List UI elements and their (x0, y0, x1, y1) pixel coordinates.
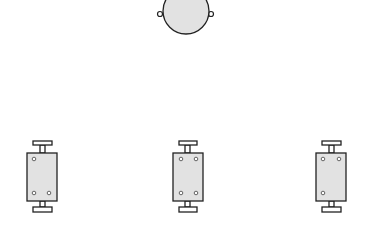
mount-hole-icon (32, 191, 36, 195)
top-cap (179, 141, 197, 145)
knob-left (158, 12, 163, 17)
mount-hole-icon (194, 157, 198, 161)
mount-hole-icon (337, 157, 341, 161)
rect-body (27, 153, 57, 201)
top-cap (33, 141, 52, 145)
mount-hole-icon (32, 157, 36, 161)
rect-fixture-icon (173, 141, 203, 212)
mount-hole-icon (321, 191, 325, 195)
diagram-canvas (0, 0, 371, 227)
top-stem (185, 145, 190, 153)
bottom-stem (185, 201, 190, 207)
round-body (163, 0, 209, 34)
bottom-cap (322, 207, 341, 212)
top-stem (329, 145, 334, 153)
mount-hole-icon (194, 191, 198, 195)
bottom-stem (329, 201, 334, 207)
rect-body (173, 153, 203, 201)
round-fixture-icon (158, 0, 214, 34)
rect-fixture-icon (27, 141, 57, 212)
mount-hole-icon (179, 191, 183, 195)
mount-hole-icon (321, 157, 325, 161)
bottom-cap (179, 207, 197, 212)
bottom-stem (40, 201, 45, 207)
top-cap (322, 141, 341, 145)
rect-fixture-icon (316, 141, 346, 212)
mount-hole-icon (47, 191, 51, 195)
top-stem (40, 145, 45, 153)
mount-hole-icon (179, 157, 183, 161)
bottom-cap (33, 207, 52, 212)
rect-body (316, 153, 346, 201)
